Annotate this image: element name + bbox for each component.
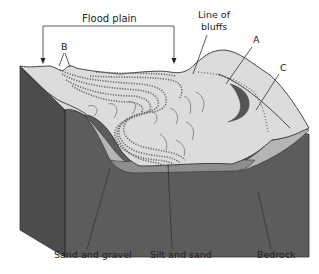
flood-plain-diagram: Flood plain B Line of bluffs A C Sand an… (0, 0, 319, 274)
label-flood-plain: Flood plain (82, 13, 137, 24)
label-silt-and-sand: Silt and sand (150, 249, 212, 260)
leader-b (59, 53, 70, 67)
label-line-of-bluffs-1: Line of (198, 9, 231, 20)
label-b: B (61, 41, 68, 52)
label-line-of-bluffs-2: bluffs (201, 21, 227, 32)
label-a: A (253, 34, 260, 45)
label-sand-and-gravel: Sand and gravel (54, 249, 132, 260)
label-bedrock: Bedrock (257, 249, 296, 260)
label-c: C (280, 62, 287, 73)
